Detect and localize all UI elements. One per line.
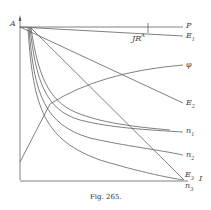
label-n2: n2 [186,151,194,161]
label-P: P [186,22,191,30]
curve-phi [20,65,183,162]
line-E1 [20,27,183,36]
line-E2 [20,27,183,103]
label-IR-main: JR [132,34,141,43]
label-n3-sub: 3 [190,186,193,192]
label-origin-A: A [10,20,16,28]
label-n1: n1 [186,127,194,137]
label-E1-sub: 1 [192,36,195,42]
figure-caption: Fig. 265. [90,193,122,201]
label-n2-sub: 2 [191,155,194,161]
label-n3: n3 [185,182,193,192]
label-n1-sub: 1 [191,131,194,137]
curve-n1 [30,28,183,132]
label-E3: E3 [185,171,194,181]
label-E1: E1 [186,32,195,42]
label-E3-sub: 3 [191,175,194,181]
label-IR-sup: A [141,32,145,38]
label-E2-sub: 2 [192,103,195,109]
label-IR: JRA [132,33,145,43]
diagram-canvas [0,0,211,210]
label-I: I [199,175,202,183]
label-E2: E2 [186,99,195,109]
y-axis-arrow-icon [19,15,22,21]
label-phi: φ [186,61,192,69]
curve-n2 [29,28,183,155]
curve-n3 [28,28,183,180]
